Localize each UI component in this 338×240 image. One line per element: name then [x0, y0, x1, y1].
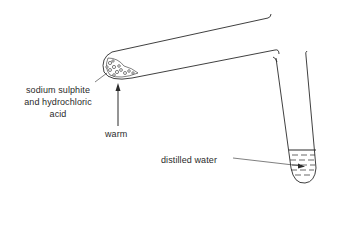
reactant-mixture	[106, 58, 138, 77]
reactants-label-line2: and hydrochloric	[10, 96, 106, 108]
reactants-label-line1: sodium sulphite	[10, 84, 106, 96]
reactants-leader-line	[95, 73, 107, 82]
distilled-water	[289, 150, 316, 175]
reactants-label-line3: acid	[10, 108, 106, 120]
reactants-label: sodium sulphite and hydrochloric acid	[10, 84, 106, 120]
heat-label: warm	[105, 128, 127, 140]
heat-arrow-icon	[116, 83, 121, 126]
collecting-test-tube	[276, 51, 316, 183]
water-leader-arrow-icon	[233, 158, 305, 169]
collector-label: distilled water	[161, 154, 217, 166]
